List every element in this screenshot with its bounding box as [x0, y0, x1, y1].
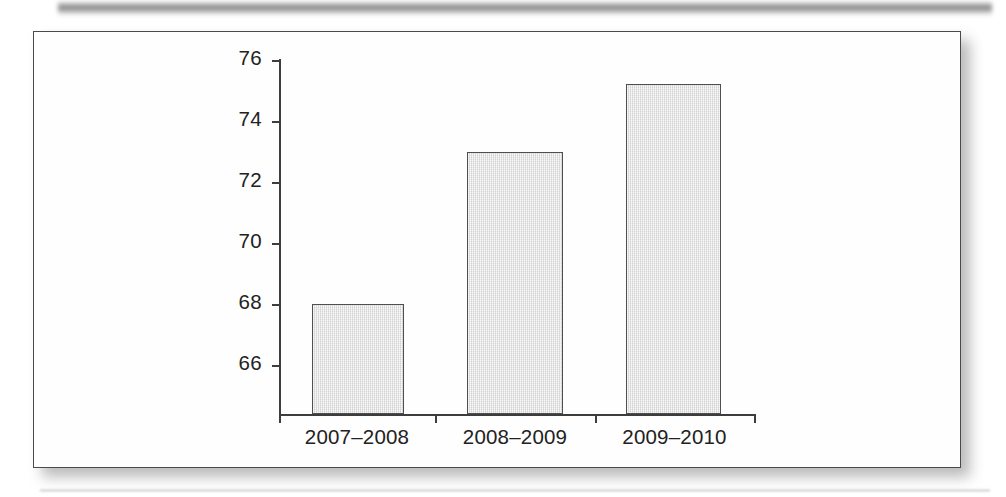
y-axis-label-70: 70	[218, 229, 262, 253]
x-axis-tick-start	[279, 414, 281, 423]
chart-figure-frame: 76 74 72 70 68 66	[33, 31, 961, 468]
screenshot-page: 76 74 72 70 68 66	[0, 0, 1006, 497]
x-axis-label-2009-2010: 2009–2010	[595, 425, 754, 449]
x-axis-label-2008-2009: 2008–2009	[435, 425, 595, 449]
scan-artifact-bottom-rule	[40, 489, 990, 492]
y-axis-label-66: 66	[218, 351, 262, 375]
y-axis-label-68: 68	[218, 290, 262, 314]
y-axis-line	[279, 59, 281, 415]
y-axis-label-72: 72	[218, 168, 262, 192]
y-axis-tick-70	[272, 243, 280, 245]
x-axis-line	[279, 414, 755, 416]
x-axis-tick-end	[754, 414, 756, 423]
y-axis-tick-76	[272, 60, 280, 62]
y-axis-label-74: 74	[218, 107, 262, 131]
y-axis-tick-74	[272, 121, 280, 123]
bar-2009-2010	[626, 84, 721, 414]
plot-area: 76 74 72 70 68 66	[34, 32, 962, 469]
y-axis-tick-66	[272, 365, 280, 367]
bar-2007-2008	[312, 304, 404, 414]
x-axis-label-2007-2008: 2007–2008	[279, 425, 435, 449]
y-axis-tick-68	[272, 304, 280, 306]
x-axis-tick-1	[435, 414, 437, 423]
y-axis-label-76: 76	[218, 46, 262, 70]
scan-artifact-top-band	[58, 1, 992, 16]
bar-2008-2009	[467, 152, 563, 414]
y-axis-tick-72	[272, 182, 280, 184]
x-axis-tick-2	[595, 414, 597, 423]
